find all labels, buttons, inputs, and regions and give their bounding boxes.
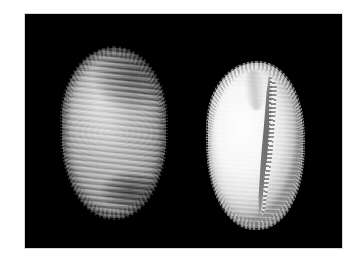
specimen-ventral-view: [208, 63, 303, 228]
shell-dorsal-edge-shadow: [62, 48, 166, 218]
figure-plate: [25, 14, 342, 248]
shell-ventral-edge-shadow: [208, 63, 303, 228]
specimen-dorsal-view: [62, 48, 166, 218]
